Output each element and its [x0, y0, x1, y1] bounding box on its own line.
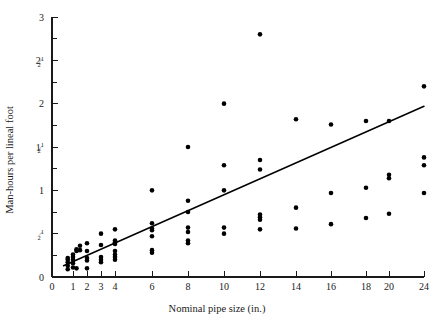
data-point	[150, 188, 155, 193]
plot-area: 01⁄2111⁄2221⁄23 012346810121416182024 No…	[0, 0, 435, 323]
data-point	[113, 257, 118, 262]
data-point	[85, 249, 90, 254]
x-tick-label: 16	[326, 281, 336, 292]
x-tick-label: 24	[419, 281, 429, 292]
x-tick-label: 12	[255, 281, 265, 292]
data-point	[329, 222, 334, 227]
y-tick-label: 1⁄2	[38, 228, 44, 241]
data-point	[329, 122, 334, 127]
data-point	[150, 250, 155, 255]
x-tick-label: 0	[50, 281, 55, 292]
y-axis-title: Man-hours per lineal foot	[4, 106, 15, 214]
data-point	[186, 198, 191, 203]
data-point	[65, 267, 70, 272]
data-point	[113, 242, 118, 247]
data-point	[71, 261, 76, 266]
data-point	[74, 266, 79, 271]
y-axis: 01⁄2111⁄2221⁄23	[36, 12, 58, 283]
data-point	[422, 163, 427, 168]
data-point	[222, 101, 227, 106]
data-point	[364, 216, 369, 221]
data-point	[99, 243, 104, 248]
x-tick-label: 1	[71, 281, 76, 292]
data-point	[222, 225, 227, 230]
data-point	[222, 188, 227, 193]
x-tick-label: 20	[384, 281, 394, 292]
data-point	[258, 227, 263, 232]
data-point	[113, 227, 118, 232]
data-point	[150, 234, 155, 239]
data-point	[422, 84, 427, 89]
data-point	[186, 210, 191, 215]
scatter-chart: 01⁄2111⁄2221⁄23 012346810121416182024 No…	[0, 0, 435, 323]
data-point	[186, 241, 191, 246]
data-point	[222, 163, 227, 168]
data-point	[387, 176, 392, 181]
data-point	[294, 205, 299, 210]
data-point	[85, 258, 90, 263]
data-point	[85, 266, 90, 271]
x-tick-label: 3	[99, 281, 104, 292]
data-points	[65, 32, 426, 271]
regression-line	[64, 106, 424, 265]
data-point	[258, 158, 263, 163]
data-point	[258, 218, 263, 223]
data-point	[387, 211, 392, 216]
data-point	[364, 185, 369, 190]
y-tick-label: 2	[39, 98, 44, 109]
data-point	[294, 117, 299, 122]
x-tick-label: 18	[361, 281, 371, 292]
data-point	[99, 260, 104, 265]
x-tick-label: 2	[85, 281, 90, 292]
y-tick-label: 0	[39, 272, 44, 283]
y-tick-label: 11⁄2	[36, 141, 44, 154]
data-point	[186, 230, 191, 235]
data-point	[85, 241, 90, 246]
data-point	[422, 155, 427, 160]
data-point	[258, 32, 263, 37]
data-point	[294, 226, 299, 231]
x-axis-title: Nominal pipe size (in.)	[169, 303, 266, 315]
data-point	[258, 167, 263, 172]
data-point	[186, 145, 191, 150]
x-tick-label: 4	[113, 281, 118, 292]
data-point	[222, 231, 227, 236]
data-point	[99, 231, 104, 236]
data-point	[78, 244, 83, 249]
data-point	[150, 221, 155, 226]
x-axis: 012346810121416182024	[50, 271, 430, 292]
data-point	[329, 191, 334, 196]
x-tick-label: 14	[291, 281, 301, 292]
data-point	[150, 228, 155, 233]
data-point	[186, 225, 191, 230]
y-tick-label: 3	[39, 12, 44, 23]
x-tick-label: 8	[186, 281, 191, 292]
data-point	[364, 119, 369, 124]
x-tick-label: 10	[219, 281, 229, 292]
data-point	[422, 191, 427, 196]
x-tick-label: 6	[150, 281, 155, 292]
data-point	[78, 248, 83, 253]
y-tick-label: 21⁄2	[36, 55, 44, 68]
data-point	[387, 119, 392, 124]
y-tick-label: 1	[39, 185, 44, 196]
